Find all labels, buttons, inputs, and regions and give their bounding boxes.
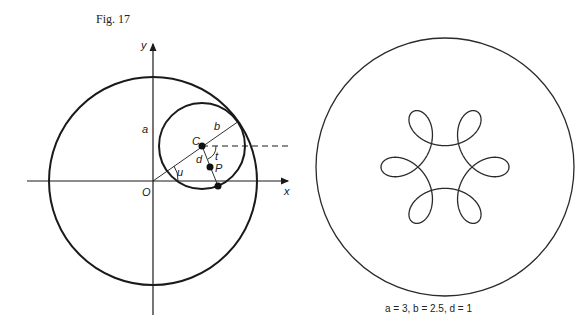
segment-a-label: a	[142, 123, 148, 135]
parameter-caption: a = 3, b = 2.5, d = 1	[385, 303, 472, 314]
angle-u-label: u	[177, 166, 183, 178]
segment-d-label: d	[196, 153, 203, 165]
left-diagram: y x O a b d C P u t	[27, 39, 290, 315]
x-axis-label: x	[283, 185, 290, 197]
right-diagram	[316, 38, 574, 296]
tracing-point-p	[207, 164, 214, 171]
segment-b-label: b	[214, 120, 220, 132]
radius-line	[153, 121, 239, 181]
outer-boundary-circle	[316, 38, 574, 296]
point-p-label: P	[215, 162, 223, 174]
center-c-label: C	[192, 135, 200, 147]
y-axis-label: y	[140, 39, 148, 51]
hypotrochoid-curve	[381, 111, 509, 224]
angle-t-label: t	[215, 150, 219, 162]
origin-label: O	[142, 186, 151, 198]
contact-point	[215, 183, 222, 190]
diagram-canvas: y x O a b d C P u t	[0, 0, 578, 334]
